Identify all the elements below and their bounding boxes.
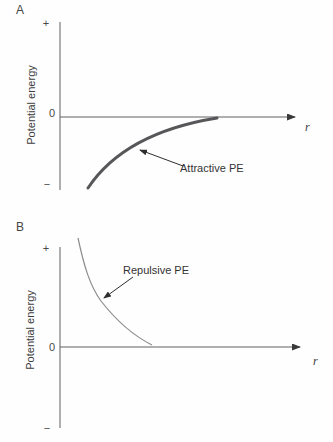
attractive-pe-label: Attractive PE [180,162,244,174]
attractive-pe-curve [88,118,217,188]
panel-a-y-axis-label: Potential energy [25,65,37,145]
panel-a-tick-plus: + [43,17,49,29]
panel-a-tick-minus: − [44,178,50,190]
panel-b-tick-zero: 0 [49,341,55,353]
attractive-pe-arrow [140,150,183,166]
repulsive-pe-arrow [104,277,133,298]
panel-a-x-axis-label: r [305,120,310,134]
panel-b: B + 0 − Potential energy r Repulsive PE [0,221,333,442]
panel-a-letter: A [16,3,24,17]
repulsive-pe-label: Repulsive PE [123,264,189,276]
panel-a-plot: A + 0 − Potential energy r Attractive PE [0,0,333,221]
panel-b-tick-plus: + [43,242,49,254]
panel-b-letter: B [16,221,24,234]
repulsive-pe-curve [78,238,152,345]
panel-b-x-axis-label: r [313,354,318,368]
panel-a: A + 0 − Potential energy r Attractive PE [0,0,333,221]
panel-b-tick-minus: − [44,422,50,434]
panel-b-plot: B + 0 − Potential energy r Repulsive PE [0,221,333,442]
panel-b-y-axis-label: Potential energy [24,290,36,370]
panel-a-tick-zero: 0 [49,107,55,119]
